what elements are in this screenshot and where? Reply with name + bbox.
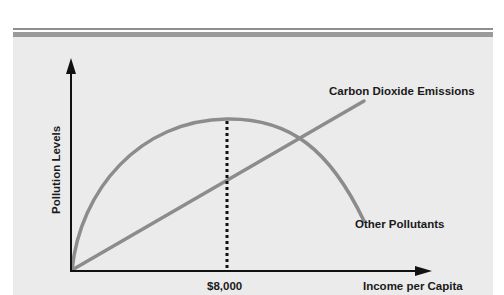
- chart-svg: Carbon Dioxide Emissions Other Pollutant…: [0, 0, 504, 295]
- co2-label: Carbon Dioxide Emissions: [329, 85, 475, 97]
- other-pollutants-curve: [72, 119, 364, 270]
- x-axis-label: Income per Capita: [363, 280, 463, 292]
- other-pollutants-label: Other Pollutants: [355, 218, 444, 230]
- y-axis-label: Pollution Levels: [50, 126, 62, 214]
- x-tick-label: $8,000: [207, 280, 242, 292]
- x-axis-arrow-icon: [415, 266, 432, 276]
- co2-line: [72, 101, 364, 270]
- y-axis-arrow-icon: [66, 58, 76, 74]
